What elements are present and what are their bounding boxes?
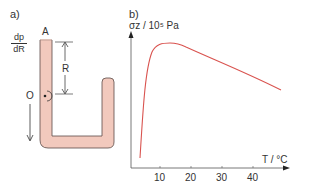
panel-b-label: b): [129, 9, 139, 20]
y-axis-arrow-icon: [129, 31, 134, 38]
axis-dot-icon: [44, 95, 47, 98]
x-tick-label-10: 10: [154, 173, 165, 183]
x-tick-label-30: 30: [216, 173, 227, 183]
x-tick-label-40: 40: [247, 173, 258, 183]
stress-curve: [140, 43, 281, 158]
x-tick-label-20: 20: [185, 173, 196, 183]
x-axis-label: T / °C: [262, 155, 287, 165]
u-tube: [40, 40, 114, 148]
y-axis-label: σz / 10⁵ Pa: [129, 21, 179, 31]
x-axis-arrow-icon: [283, 166, 290, 171]
